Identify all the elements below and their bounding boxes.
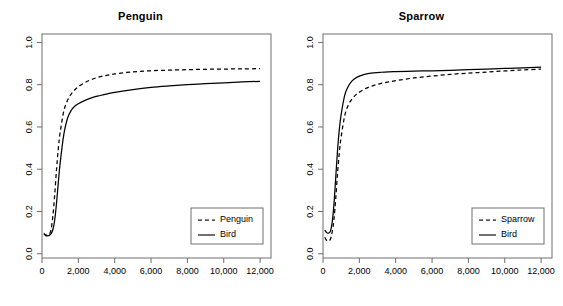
plot-area-sparrow: 02,0004,0006,0008,00010,00012,0000.00.20… [281,0,562,306]
y-tick-label: 1.0 [305,36,315,49]
x-tick-label: 4,000 [103,266,126,276]
y-tick-label: 0.6 [24,121,34,134]
y-tick-label: 0.4 [305,163,315,176]
x-tick-label: 8,000 [457,266,480,276]
y-tick-label: 0.6 [305,121,315,134]
y-tick-label: 0.0 [305,248,315,261]
y-tick-label: 0.4 [24,163,34,176]
legend-label: Sparrow [501,214,535,224]
y-tick-label: 0.8 [305,78,315,91]
y-tick-label: 0.0 [24,248,34,261]
x-tick-label: 12,000 [246,266,274,276]
y-tick-label: 0.8 [24,78,34,91]
legend-penguin: PenguinBird [191,208,263,244]
chart-panel-sparrow: Sparrow 02,0004,0006,0008,00010,00012,00… [281,0,562,306]
y-tick-label: 1.0 [24,36,34,49]
x-tick-label: 4,000 [384,266,407,276]
x-tick-label: 0 [320,266,325,276]
x-tick-label: 2,000 [67,266,90,276]
figure-container: Penguin 02,0004,0006,0008,00010,00012,00… [0,0,563,306]
legend-label: Bird [501,229,517,239]
y-tick-label: 0.2 [24,205,34,218]
x-tick-label: 10,000 [210,266,238,276]
plot-area-penguin: 02,0004,0006,0008,00010,00012,0000.00.20… [0,0,281,306]
legend-sparrow: SparrowBird [472,208,544,244]
legend-label: Bird [220,229,236,239]
x-tick-label: 10,000 [491,266,519,276]
x-tick-label: 0 [39,266,44,276]
x-tick-label: 2,000 [348,266,371,276]
chart-panel-penguin: Penguin 02,0004,0006,0008,00010,00012,00… [0,0,281,306]
x-tick-label: 12,000 [527,266,555,276]
x-tick-label: 8,000 [176,266,199,276]
legend-label: Penguin [220,214,253,224]
x-tick-label: 6,000 [421,266,444,276]
y-tick-label: 0.2 [305,205,315,218]
x-tick-label: 6,000 [140,266,163,276]
